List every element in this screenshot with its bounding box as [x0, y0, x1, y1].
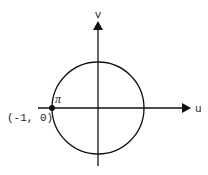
point-coordinate-label: (-1, 0)	[7, 112, 53, 124]
point-angle-label: π	[55, 92, 62, 106]
u-axis-label: u	[195, 103, 202, 115]
unit-circle-diagram: v u π (-1, 0)	[0, 0, 208, 175]
v-axis-label: v	[95, 9, 102, 21]
u-axis-arrow-icon	[182, 103, 191, 113]
v-axis-arrow-icon	[93, 21, 103, 30]
